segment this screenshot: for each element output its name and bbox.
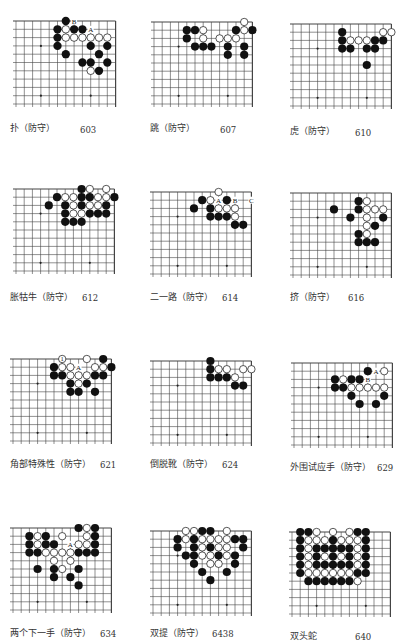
black-stone [354, 569, 362, 577]
black-stone [362, 536, 370, 544]
white-stone [313, 537, 320, 544]
black-stone [362, 528, 370, 536]
black-stone [337, 544, 345, 552]
black-stone [337, 577, 345, 585]
black-stone [354, 528, 362, 536]
white-stone [338, 537, 345, 544]
white-stone [305, 553, 312, 560]
go-board [0, 0, 402, 644]
white-stone [305, 561, 312, 568]
white-stone [354, 553, 361, 560]
black-stone [329, 536, 337, 544]
black-stone [313, 553, 321, 561]
black-stone [296, 561, 304, 569]
white-stone [346, 528, 353, 535]
problem-caption: 双头蛇 [290, 629, 317, 642]
black-stone [362, 544, 370, 552]
black-stone [296, 553, 304, 561]
white-stone [354, 561, 361, 568]
white-stone [321, 569, 328, 576]
white-stone [338, 553, 345, 560]
black-stone [345, 544, 353, 552]
black-stone [362, 553, 370, 561]
white-stone [346, 537, 353, 544]
black-stone [304, 528, 312, 536]
black-stone [313, 544, 321, 552]
white-stone [313, 569, 320, 576]
black-stone [345, 561, 353, 569]
black-stone [329, 553, 337, 561]
black-stone [296, 536, 304, 544]
white-stone [313, 528, 320, 535]
black-stone [321, 561, 329, 569]
white-stone [346, 569, 353, 576]
black-stone [362, 569, 370, 577]
black-stone [345, 553, 353, 561]
white-stone [305, 545, 312, 552]
white-stone [329, 528, 336, 535]
white-stone [354, 537, 361, 544]
black-stone [296, 528, 304, 536]
problem-number: 640 [355, 632, 371, 642]
black-stone [296, 544, 304, 552]
black-stone [329, 577, 337, 585]
star-point [365, 605, 367, 607]
black-stone [337, 561, 345, 569]
white-stone [329, 569, 336, 576]
black-stone [304, 577, 312, 585]
white-stone [305, 537, 312, 544]
white-stone [321, 553, 328, 560]
white-stone [338, 569, 345, 576]
white-stone [354, 578, 361, 585]
black-stone [296, 569, 304, 577]
white-stone [321, 537, 328, 544]
white-stone [354, 545, 361, 552]
black-stone [321, 577, 329, 585]
black-stone [329, 544, 337, 552]
black-stone [321, 544, 329, 552]
black-stone [329, 561, 337, 569]
black-stone [362, 561, 370, 569]
black-stone [313, 561, 321, 569]
white-stone [305, 569, 312, 576]
black-stone [345, 577, 353, 585]
star-point [316, 605, 318, 607]
black-stone [313, 577, 321, 585]
